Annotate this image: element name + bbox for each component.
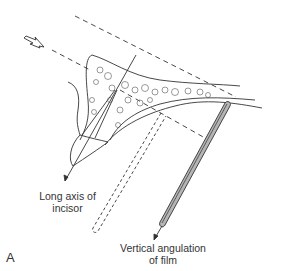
incisor-long-axis bbox=[65, 55, 136, 181]
dental-radiography-diagram bbox=[0, 0, 285, 271]
incisor-axis-label-line2: incisor bbox=[20, 202, 115, 214]
alveolar-bone-outline bbox=[80, 55, 255, 140]
palate-lower-outline bbox=[105, 102, 262, 145]
film-angulation-label-line2: of film bbox=[98, 254, 228, 266]
palate-upper-outline bbox=[92, 55, 240, 86]
panel-letter: A bbox=[6, 252, 15, 264]
incisor-axis-label-line1: Long axis of bbox=[20, 190, 115, 202]
trabecular-bone-pattern bbox=[90, 67, 211, 128]
film-angulation-label-line1: Vertical angulation bbox=[98, 242, 228, 254]
film-ideal-position bbox=[93, 113, 166, 232]
film-angulation-label: Vertical angulation of film bbox=[98, 242, 228, 266]
beam-direction-arrow-icon bbox=[24, 36, 44, 48]
lip-outline bbox=[68, 82, 80, 135]
incisor-axis-label: Long axis of incisor bbox=[20, 190, 115, 214]
